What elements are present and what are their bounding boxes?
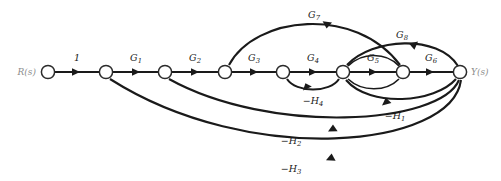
arrowhead-gain-g3 (250, 68, 258, 76)
node-n2[interactable] (158, 65, 171, 78)
input-label: R(s) (17, 67, 37, 77)
arrowhead-gain-g2 (191, 68, 199, 76)
forward-edges-group (55, 68, 453, 76)
label-gain-g5: G5 (367, 52, 379, 65)
arrowhead-gain-neg-h3 (326, 154, 336, 161)
arrowhead-gain-g5 (369, 68, 377, 76)
output-label: Y(s) (471, 67, 489, 77)
node-n5[interactable] (336, 65, 349, 78)
arrowhead-gain-g1 (132, 68, 140, 76)
edge-gain-neg-h3 (110, 79, 461, 139)
label-gain-g2: G2 (189, 52, 201, 65)
node-input-rs[interactable] (41, 65, 54, 78)
edge-gain-g8 (347, 43, 458, 66)
gain-labels-group: 1 G1 G2 G3 G4 G5 G6 G7 G8 −H4 −H1 −H2 −H… (74, 9, 438, 176)
signal-flow-graph: R(s) Y(s) 1 G1 G2 G3 G4 G5 G6 G7 G8 −H4 … (0, 0, 501, 181)
node-output-ys[interactable] (453, 65, 466, 78)
node-n3[interactable] (218, 65, 231, 78)
label-gain-g7: G7 (308, 9, 321, 22)
label-gain-g8: G8 (396, 29, 409, 42)
arrowhead-gain-g4 (309, 68, 317, 76)
label-gain-g6: G6 (425, 52, 438, 65)
label-gain-g3: G3 (248, 52, 260, 65)
label-gain-g1: G1 (130, 52, 142, 65)
edge-gain-neg-h4 (287, 79, 339, 90)
label-gain-g4: G4 (307, 52, 319, 65)
arrowhead-gain-g6 (426, 68, 434, 76)
feedback-edges-group (110, 79, 461, 161)
arrowhead-gain-neg-h2 (328, 125, 338, 132)
node-n6[interactable] (396, 65, 409, 78)
arrowhead-gain-1 (72, 68, 80, 76)
edge-gain-neg-h1 (346, 79, 456, 99)
node-n4[interactable] (276, 65, 289, 78)
label-gain-1: 1 (74, 52, 80, 63)
node-n1[interactable] (99, 65, 112, 78)
label-gain-neg-h4: −H4 (303, 95, 324, 108)
label-gain-neg-h3: −H3 (281, 163, 302, 176)
